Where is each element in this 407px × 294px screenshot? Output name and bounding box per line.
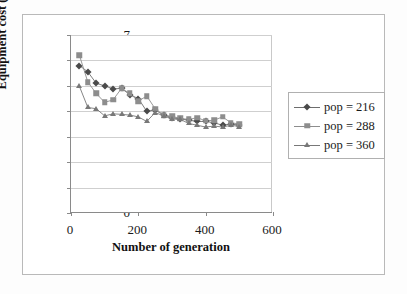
data-point-square [85, 79, 91, 85]
legend-marker-square-icon [294, 121, 320, 133]
legend-marker-diamond-icon [294, 102, 320, 114]
data-point-square [119, 86, 125, 92]
data-point-square [203, 118, 209, 124]
data-point-square [127, 91, 133, 97]
data-point-triangle [220, 124, 226, 129]
data-point-triangle [152, 110, 158, 115]
chart-legend: pop = 216pop = 288pop = 360 [288, 92, 385, 159]
data-point-triangle [211, 123, 217, 128]
data-point-square [94, 91, 100, 97]
data-point-triangle [194, 122, 200, 127]
legend-item-2[interactable]: pop = 360 [289, 136, 384, 155]
x-tick-label: 200 [107, 222, 167, 238]
data-point-triangle [228, 122, 234, 127]
data-point-triangle [203, 124, 209, 129]
chart-figure: Equipment cost (€/cu.m) 01234567 0200400… [0, 0, 407, 294]
data-point-square [102, 100, 108, 106]
data-point-triangle [177, 116, 183, 121]
data-point-triangle [135, 114, 141, 119]
data-point-triangle [119, 111, 125, 116]
legend-label: pop = 288 [324, 119, 375, 134]
legend-item-0[interactable]: pop = 216 [289, 98, 384, 117]
x-tick-label: 400 [175, 222, 235, 238]
x-axis-title: Number of generation [70, 240, 272, 255]
x-tick-label: 600 [242, 222, 302, 238]
data-point-triangle [110, 111, 116, 116]
legend-item-1[interactable]: pop = 288 [289, 117, 384, 136]
data-point-triangle [169, 116, 175, 121]
data-point-square [110, 97, 116, 103]
data-point-square [77, 53, 83, 59]
legend-label: pop = 216 [324, 100, 375, 115]
data-point-triangle [93, 106, 99, 111]
legend-label: pop = 360 [324, 138, 375, 153]
series-lines [71, 35, 273, 213]
data-point-triangle [102, 113, 108, 118]
data-point-square [144, 93, 150, 99]
data-point-triangle [85, 104, 91, 109]
plot-area [70, 35, 272, 213]
data-point-triangle [236, 124, 242, 129]
data-point-square [136, 98, 142, 104]
legend-marker-triangle-icon [294, 140, 320, 152]
data-point-square [195, 115, 201, 121]
data-point-triangle [76, 83, 82, 88]
data-point-triangle [161, 113, 167, 118]
data-point-triangle [186, 120, 192, 125]
data-point-triangle [127, 112, 133, 117]
y-axis-title: Equipment cost (€/cu.m) [0, 0, 10, 124]
data-point-square [220, 114, 226, 120]
x-tick-mark [273, 212, 274, 216]
data-point-triangle [144, 118, 150, 123]
x-tick-label: 0 [40, 222, 100, 238]
